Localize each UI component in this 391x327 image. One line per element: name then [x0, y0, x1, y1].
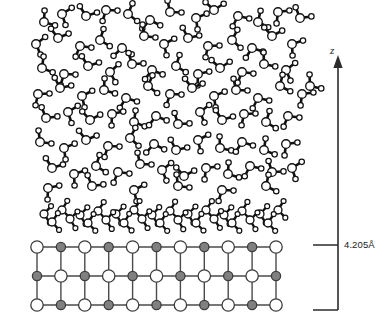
z-axis-label: z: [330, 44, 334, 56]
z-axis-arrowhead: [333, 55, 342, 68]
molecular-dynamics-figure: z 4.205Å: [0, 0, 391, 327]
lattice-spacing-label: 4.205Å: [344, 239, 375, 250]
